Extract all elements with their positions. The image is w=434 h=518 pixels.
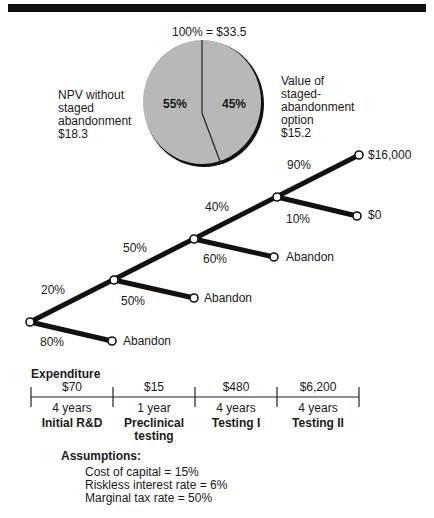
assumptions-title: Assumptions: (61, 450, 141, 463)
stage-duration: 4 years (31, 402, 113, 415)
stage-name: Preclinical testing (123, 417, 185, 443)
assumption-item: Marginal tax rate = 50% (85, 492, 212, 505)
stage-duration: 4 years (277, 402, 359, 415)
stage-duration: 4 years (195, 402, 277, 415)
stage-name: Initial R&D (31, 417, 113, 430)
stage-cost: $6,200 (277, 381, 359, 394)
stage-cost: $15 (113, 381, 195, 394)
stage-cost: $70 (31, 381, 113, 394)
stage-cost: $480 (195, 381, 277, 394)
timeline-axis (0, 0, 434, 518)
stage-duration: 1 year (113, 402, 195, 415)
stage-name: Testing II (277, 417, 359, 430)
stage-name: Testing I (195, 417, 277, 430)
